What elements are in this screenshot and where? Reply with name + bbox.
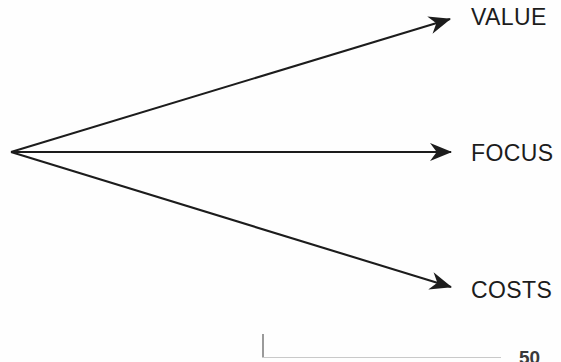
footnote-separator-rule bbox=[262, 357, 501, 358]
node-label-costs: COSTS bbox=[471, 279, 552, 302]
footnote-clipped-text: 50 bbox=[519, 348, 540, 362]
diagram-canvas: VALUE FOCUS COSTS 50 bbox=[0, 0, 561, 362]
node-label-focus: FOCUS bbox=[471, 142, 554, 165]
footnote-tick-mark bbox=[262, 334, 264, 358]
node-label-value: VALUE bbox=[471, 6, 547, 29]
arrow-fan-graphic bbox=[0, 0, 561, 362]
arrow-line-costs bbox=[11, 152, 451, 287]
arrow-line-value bbox=[11, 19, 450, 152]
